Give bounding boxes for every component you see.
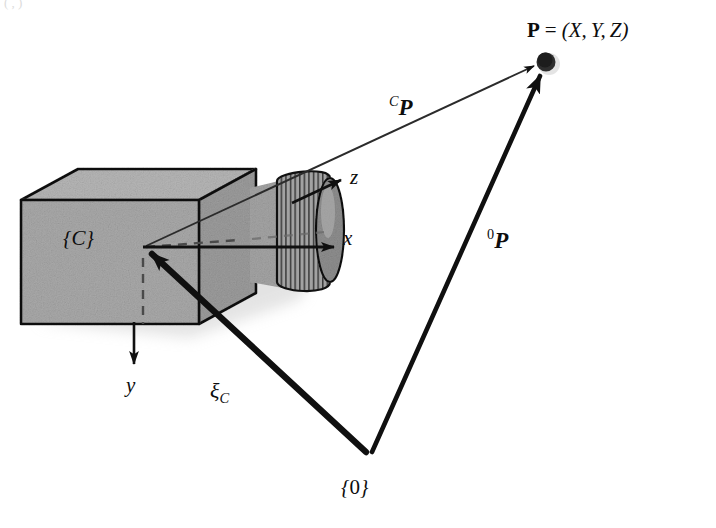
camera-frame-close-brace: } (85, 226, 93, 250)
camera-frame-label: {C} (63, 228, 94, 249)
diagram-svg (0, 0, 716, 528)
world-frame-label: {0} (341, 477, 368, 498)
camera-vector-symbol: P (399, 95, 413, 120)
point-p-symbol: P (527, 18, 540, 42)
point-p-label: P=(X,Y,Z) (527, 20, 628, 41)
point-p-y: Y (591, 18, 601, 42)
camera-vector-label: CP (389, 94, 413, 119)
point-p-open-paren: ( (562, 18, 569, 42)
world-vector-symbol: P (494, 228, 508, 253)
world-vector-label: 0P (487, 227, 508, 252)
figure-canvas: ( , ) P=(X,Y,Z) CP 0P z x y ξC {C} {0} (0, 0, 716, 528)
point-p-x: X (569, 18, 582, 42)
point-p-z: Z (610, 18, 622, 42)
world-vector-0p (372, 76, 540, 452)
axis-y-label: y (126, 375, 135, 396)
world-frame-name: 0 (349, 475, 360, 499)
camera-frame-name: C (71, 226, 85, 250)
pose-label: ξC (210, 380, 229, 406)
pose-frame-subscript: C (219, 390, 229, 406)
axis-z-label: z (350, 167, 358, 188)
point-p-marker (537, 53, 561, 76)
scan-artifact-corner: ( , ) (4, 0, 22, 9)
axis-x-label: x (343, 228, 352, 249)
point-p-equals: = (545, 18, 557, 42)
point-p-comma-1: , (582, 18, 587, 42)
point-p-comma-2: , (601, 18, 606, 42)
world-frame-close-brace: } (360, 475, 368, 499)
camera-vector-frame-superscript: C (389, 93, 399, 109)
camera-lens (250, 171, 344, 291)
point-p-close-paren: ) (621, 18, 628, 42)
pose-xi-symbol: ξ (210, 378, 219, 403)
